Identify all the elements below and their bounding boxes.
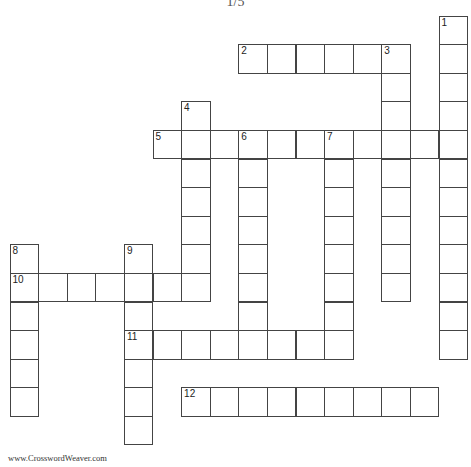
grid-cell[interactable]: [124, 302, 154, 332]
clue-number: 9: [127, 246, 133, 256]
grid-cell[interactable]: [267, 44, 297, 74]
grid-cell[interactable]: 12: [181, 387, 211, 417]
grid-cell[interactable]: [181, 244, 211, 274]
clue-number: 11: [127, 332, 137, 342]
grid-cell[interactable]: [181, 159, 211, 189]
grid-cell[interactable]: [381, 216, 411, 246]
grid-cell[interactable]: [324, 302, 354, 332]
footer-credit: www.CrosswordWeaver.com: [8, 453, 107, 463]
clue-number: 4: [184, 103, 190, 113]
grid-cell[interactable]: 8: [10, 244, 40, 274]
grid-cell[interactable]: [353, 44, 383, 74]
grid-cell[interactable]: [267, 130, 297, 160]
crossword-grid: 123456781091112: [0, 0, 471, 467]
grid-cell[interactable]: [296, 44, 326, 74]
grid-cell[interactable]: [267, 387, 297, 417]
grid-cell[interactable]: [296, 130, 326, 160]
grid-cell[interactable]: [381, 273, 411, 303]
grid-cell[interactable]: [10, 387, 40, 417]
grid-cell[interactable]: 11: [124, 330, 154, 360]
grid-cell[interactable]: 5: [153, 130, 183, 160]
grid-cell[interactable]: [210, 387, 240, 417]
grid-cell[interactable]: [324, 187, 354, 217]
grid-cell[interactable]: [353, 130, 383, 160]
grid-cell[interactable]: [124, 387, 154, 417]
grid-cell[interactable]: [296, 387, 326, 417]
grid-cell[interactable]: [153, 273, 183, 303]
grid-cell[interactable]: [324, 44, 354, 74]
grid-cell[interactable]: [324, 244, 354, 274]
grid-cell[interactable]: [324, 387, 354, 417]
grid-cell[interactable]: [10, 330, 40, 360]
grid-cell[interactable]: [267, 330, 297, 360]
grid-cell[interactable]: [410, 130, 440, 160]
grid-cell[interactable]: [38, 273, 68, 303]
grid-cell[interactable]: [181, 330, 211, 360]
grid-cell[interactable]: [381, 159, 411, 189]
grid-cell[interactable]: [381, 101, 411, 131]
grid-cell[interactable]: 2: [238, 44, 268, 74]
grid-cell[interactable]: [238, 387, 268, 417]
grid-cell[interactable]: [210, 130, 240, 160]
grid-cell[interactable]: [181, 187, 211, 217]
grid-cell[interactable]: [296, 330, 326, 360]
grid-cell[interactable]: [153, 330, 183, 360]
clue-number: 10: [13, 275, 24, 285]
grid-cell[interactable]: [439, 101, 469, 131]
grid-cell[interactable]: [124, 359, 154, 389]
grid-cell[interactable]: 1: [439, 16, 469, 46]
grid-cell[interactable]: [181, 130, 211, 160]
grid-cell[interactable]: [439, 330, 469, 360]
grid-cell[interactable]: 4: [181, 101, 211, 131]
grid-cell[interactable]: [439, 159, 469, 189]
grid-cell[interactable]: [10, 302, 40, 332]
grid-cell[interactable]: [410, 387, 440, 417]
grid-cell[interactable]: [181, 216, 211, 246]
grid-cell[interactable]: [238, 273, 268, 303]
grid-cell[interactable]: 9: [124, 244, 154, 274]
clue-number: 8: [13, 246, 19, 256]
grid-cell[interactable]: [324, 330, 354, 360]
grid-cell[interactable]: [381, 130, 411, 160]
grid-cell[interactable]: 6: [238, 130, 268, 160]
grid-cell[interactable]: [181, 273, 211, 303]
grid-cell[interactable]: [381, 244, 411, 274]
grid-cell[interactable]: [238, 216, 268, 246]
grid-cell[interactable]: [439, 44, 469, 74]
grid-cell[interactable]: [439, 244, 469, 274]
grid-cell[interactable]: [324, 216, 354, 246]
grid-cell[interactable]: [381, 387, 411, 417]
grid-cell[interactable]: [238, 244, 268, 274]
grid-cell[interactable]: [381, 73, 411, 103]
grid-cell[interactable]: [439, 302, 469, 332]
grid-cell[interactable]: 3: [381, 44, 411, 74]
grid-cell[interactable]: [124, 273, 154, 303]
grid-cell[interactable]: [439, 216, 469, 246]
grid-cell[interactable]: [238, 330, 268, 360]
grid-cell[interactable]: [439, 73, 469, 103]
clue-number: 5: [156, 132, 162, 142]
grid-cell[interactable]: [67, 273, 97, 303]
grid-cell[interactable]: 7: [324, 130, 354, 160]
grid-cell[interactable]: [210, 330, 240, 360]
grid-cell[interactable]: [324, 159, 354, 189]
grid-cell[interactable]: [353, 387, 383, 417]
grid-cell[interactable]: [324, 273, 354, 303]
clue-number: 2: [241, 46, 247, 56]
grid-cell[interactable]: [439, 273, 469, 303]
grid-cell[interactable]: 10: [10, 273, 40, 303]
clue-number: 12: [184, 389, 195, 399]
grid-cell[interactable]: [95, 273, 125, 303]
grid-cell[interactable]: [238, 159, 268, 189]
grid-cell[interactable]: [439, 187, 469, 217]
clue-number: 6: [241, 132, 247, 142]
grid-cell[interactable]: [238, 187, 268, 217]
grid-cell[interactable]: [238, 302, 268, 332]
clue-number: 7: [327, 132, 333, 142]
clue-number: 1: [442, 18, 448, 28]
grid-cell[interactable]: [439, 130, 469, 160]
clue-number: 3: [384, 46, 390, 56]
grid-cell[interactable]: [381, 187, 411, 217]
grid-cell[interactable]: [124, 416, 154, 446]
grid-cell[interactable]: [10, 359, 40, 389]
